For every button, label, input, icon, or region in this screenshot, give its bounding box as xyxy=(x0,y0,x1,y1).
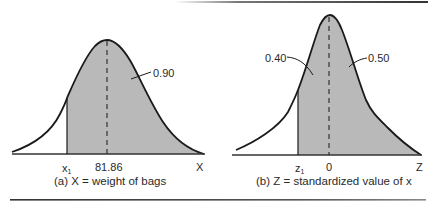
panel-a-plot xyxy=(12,40,205,154)
panel-b-mean-label: 0 xyxy=(326,161,332,173)
panel-b-right-area-label: 0.50 xyxy=(368,52,389,64)
panel-b-plot xyxy=(232,15,422,155)
panel-b-axis-var-label: Z xyxy=(416,161,423,173)
panel-b-caption: (b) Z = standardized value of x xyxy=(256,175,412,188)
panel-a-x1-sub: 1 xyxy=(68,168,72,175)
top-rule xyxy=(175,1,428,3)
panel-a-axis-var-label: X xyxy=(196,161,203,173)
panel-a-area-label: 0.90 xyxy=(153,67,174,79)
panel-b-left-area-label: 0.40 xyxy=(265,52,286,64)
panel-a-mean-label: 81.86 xyxy=(95,161,123,173)
panel-a-caption: (a) X = weight of bags xyxy=(54,175,166,188)
bottom-rule xyxy=(10,199,426,201)
panel-b-z1-sub: 1 xyxy=(301,168,305,175)
